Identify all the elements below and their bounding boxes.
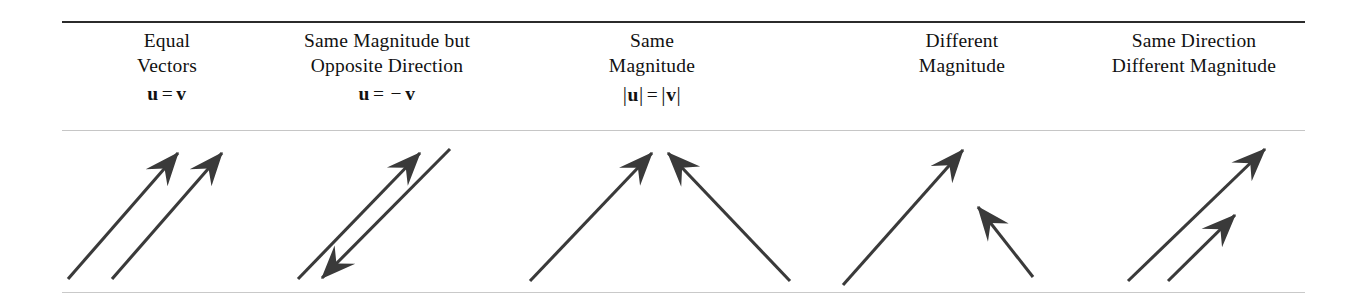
column-headers: Equal Vectors u=v Same Magnitude but Opp… (62, 28, 1305, 126)
formula-right-symbol: v (176, 83, 186, 104)
vector-arrow-v (1168, 215, 1235, 281)
column-header-line2: Opposite Direction (262, 53, 512, 78)
column-header-same-direction-different-magnitude: Same Direction Different Magnitude (1084, 28, 1304, 79)
formula-right-symbol: v (666, 84, 676, 105)
diagram-same-magnitude (530, 153, 790, 281)
column-formula: u=−v (262, 81, 512, 106)
magnitude-bar-close-left: | (639, 82, 644, 106)
column-header-line1: Equal (84, 28, 250, 53)
formula-left-symbol: u (147, 83, 158, 104)
column-header-line1: Same Direction (1084, 28, 1304, 53)
column-header-same-magnitude-opposite-direction: Same Magnitude but Opposite Direction u=… (262, 28, 512, 106)
column-header-line2: Magnitude (562, 53, 742, 78)
vector-arrow-u (530, 153, 652, 281)
magnitude-bar-close-right: | (677, 82, 682, 106)
column-header-line1: Different (872, 28, 1052, 53)
vector-arrow-u (843, 150, 963, 285)
formula-minus-sign: − (388, 83, 406, 104)
vector-arrow-v (668, 153, 790, 281)
vector-arrow-u (1128, 149, 1265, 281)
formula-equals-sign: = (370, 83, 388, 104)
vector-arrow-negative-v (322, 149, 450, 278)
column-header-line2: Different Magnitude (1084, 53, 1304, 78)
header-top-rule (62, 21, 1305, 23)
column-header-line2: Magnitude (872, 53, 1052, 78)
vector-comparison-figure: Equal Vectors u=v Same Magnitude but Opp… (0, 0, 1349, 303)
diagram-equal-vectors (68, 153, 222, 279)
vector-diagrams (0, 131, 1349, 292)
formula-left-symbol: u (358, 83, 369, 104)
column-header-line1: Same Magnitude but (262, 28, 512, 53)
formula-right-symbol: v (405, 83, 415, 104)
vector-arrow-u (68, 153, 178, 279)
vector-arrow-v (112, 153, 222, 279)
formula-equals-sign: = (159, 83, 177, 104)
formula-left-symbol: u (627, 84, 638, 105)
column-header-line1: Same (562, 28, 742, 53)
vector-arrow-v (978, 207, 1033, 277)
column-header-equal-vectors: Equal Vectors u=v (84, 28, 250, 106)
column-formula: |u|=|v| (562, 81, 742, 108)
formula-equals-sign: = (644, 84, 662, 105)
figure-bottom-rule (62, 292, 1305, 293)
column-header-different-magnitude: Different Magnitude (872, 28, 1052, 79)
diagram-different-magnitude (843, 150, 1033, 285)
column-header-line2: Vectors (84, 53, 250, 78)
vector-arrow-u (298, 153, 420, 279)
diagram-same-direction-different-magnitude (1128, 149, 1265, 281)
column-header-same-magnitude: Same Magnitude |u|=|v| (562, 28, 742, 108)
diagram-same-magnitude-opposite-direction (298, 149, 450, 279)
column-formula: u=v (84, 81, 250, 106)
